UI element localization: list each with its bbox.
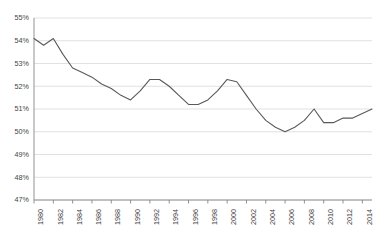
chart-plot-area — [0, 0, 379, 241]
line-chart: 55%54%53%52%51%50%49%48%47% 198019821984… — [0, 0, 379, 241]
gridlines — [34, 18, 372, 200]
data-series-line — [34, 38, 372, 131]
x-axis-ticks — [34, 200, 362, 204]
